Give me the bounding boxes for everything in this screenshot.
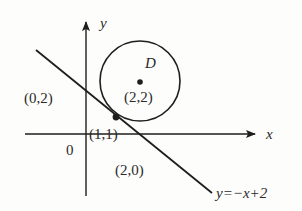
circle-name-label: D — [144, 55, 156, 71]
tangent-point-dot — [113, 114, 120, 121]
y-axis-label: y — [98, 15, 107, 31]
line-equation-label: y=−x+2 — [214, 185, 268, 201]
point-label-1-1: (1,1) — [89, 126, 118, 143]
point-label-2-0: (2,0) — [115, 162, 144, 179]
point-label-0-2: (0,2) — [24, 90, 53, 107]
x-axis-label: x — [265, 126, 273, 142]
circle-center-dot — [137, 79, 143, 85]
coordinate-diagram: y x 0 D (2,2) (0,2) (1,1) (2,0) y=−x+2 — [0, 0, 302, 211]
origin-label: 0 — [66, 142, 74, 158]
circle-center-label: (2,2) — [124, 89, 153, 106]
